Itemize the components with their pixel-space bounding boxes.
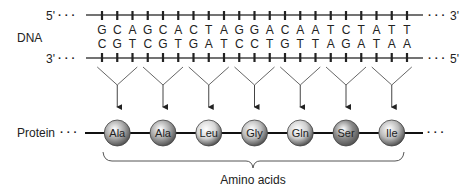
amino-acid-label: Gln bbox=[292, 127, 309, 139]
codon-bracket bbox=[189, 67, 229, 85]
top-strand-base: A bbox=[372, 23, 380, 37]
ellipsis-protein-left: · · · bbox=[60, 126, 77, 138]
bottom-strand-base: T bbox=[297, 37, 305, 51]
amino-acid-ala: Ala bbox=[150, 120, 176, 146]
ellipsis-top-left: · · · bbox=[58, 9, 75, 21]
bottom-strand-base: T bbox=[312, 37, 320, 51]
dna-to-protein-diagram: 5' · · · DNA 3' · · · · · · 3' · · · 5' … bbox=[0, 0, 476, 193]
amino-acid-leu: Leu bbox=[196, 120, 222, 146]
bottom-strand-base: T bbox=[220, 37, 228, 51]
ellipsis-protein-right: · · · bbox=[427, 126, 444, 138]
amino-acid-label: Ala bbox=[109, 127, 126, 139]
top-strand-base: C bbox=[113, 23, 122, 37]
bottom-strand-base: G bbox=[280, 37, 289, 51]
bottom-strand-base: A bbox=[388, 37, 396, 51]
ellipsis-bottom-right: · · · bbox=[428, 52, 445, 64]
bottom-strand-base: T bbox=[129, 37, 137, 51]
bottom-strand-base: A bbox=[403, 37, 411, 51]
dna-bases: GCCGATGCCGATCGTAATGCGCATCGATATTACGTAATTA… bbox=[97, 11, 411, 62]
amino-acid-gly: Gly bbox=[242, 120, 268, 146]
top-strand-base: G bbox=[143, 23, 152, 37]
bottom-strand-base: G bbox=[341, 37, 350, 51]
top-strand-base: T bbox=[403, 23, 411, 37]
amino-acid-label: Gly bbox=[246, 127, 263, 139]
codon-bracket bbox=[372, 67, 412, 85]
codon-bracket bbox=[326, 67, 366, 85]
ellipsis-top-right: · · · bbox=[428, 9, 445, 21]
top-strand-base: G bbox=[250, 23, 259, 37]
codon-connectors bbox=[97, 67, 412, 107]
five-prime-right-label: 5' bbox=[450, 52, 459, 66]
top-strand-base: A bbox=[311, 23, 319, 37]
bottom-strand-base: T bbox=[373, 37, 381, 51]
codon-bracket bbox=[235, 67, 275, 85]
codon-bracket bbox=[143, 67, 183, 85]
top-strand-base: G bbox=[97, 23, 106, 37]
three-prime-right-label: 3' bbox=[450, 9, 459, 23]
amino-acid-ala: Ala bbox=[104, 120, 130, 146]
amino-acid-label: Ser bbox=[337, 127, 354, 139]
bottom-strand-base: C bbox=[250, 37, 259, 51]
amino-acids-label: Amino acids bbox=[220, 173, 285, 187]
top-strand-base: T bbox=[358, 23, 366, 37]
bottom-strand-base: C bbox=[143, 37, 152, 51]
five-prime-left-label: 5' bbox=[46, 9, 55, 23]
amino-acid-label: Leu bbox=[200, 127, 218, 139]
top-strand-base: C bbox=[281, 23, 290, 37]
dna-label: DNA bbox=[17, 31, 42, 45]
amino-acid-label: Ile bbox=[386, 127, 398, 139]
bottom-strand-base: G bbox=[113, 37, 122, 51]
amino-acids-brace bbox=[103, 152, 404, 168]
bottom-strand-base: G bbox=[158, 37, 167, 51]
top-strand-base: A bbox=[266, 23, 274, 37]
amino-acid-ser: Ser bbox=[333, 120, 359, 146]
bottom-strand-base: C bbox=[98, 37, 107, 51]
codon-bracket bbox=[97, 67, 137, 85]
top-strand-base: A bbox=[220, 23, 228, 37]
amino-acid-ile: Ile bbox=[379, 120, 405, 146]
bottom-strand-base: C bbox=[235, 37, 244, 51]
top-strand-base: C bbox=[189, 23, 198, 37]
top-strand-base: A bbox=[174, 23, 182, 37]
top-strand-base: T bbox=[327, 23, 335, 37]
codon-bracket bbox=[280, 67, 320, 85]
bottom-strand-base: T bbox=[175, 37, 183, 51]
ellipsis-bottom-left: · · · bbox=[58, 52, 75, 64]
bottom-strand-base: A bbox=[205, 37, 213, 51]
top-strand-base: T bbox=[388, 23, 396, 37]
amino-acid-gln: Gln bbox=[287, 120, 313, 146]
top-strand-base: G bbox=[235, 23, 244, 37]
amino-acid-label: Ala bbox=[155, 127, 172, 139]
bottom-strand-base: T bbox=[266, 37, 274, 51]
top-strand-base: A bbox=[128, 23, 136, 37]
bottom-strand-base: A bbox=[357, 37, 365, 51]
bottom-strand-base: G bbox=[189, 37, 198, 51]
protein-label: Protein bbox=[17, 126, 55, 140]
top-strand-base: C bbox=[342, 23, 351, 37]
three-prime-left-label: 3' bbox=[46, 52, 55, 66]
top-strand-base: A bbox=[296, 23, 304, 37]
top-strand-base: T bbox=[205, 23, 213, 37]
top-strand-base: C bbox=[159, 23, 168, 37]
bottom-strand-base: A bbox=[327, 37, 335, 51]
